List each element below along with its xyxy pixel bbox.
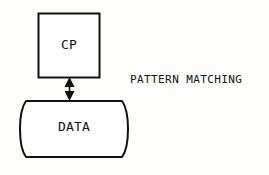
- data-label: DATA: [17, 119, 131, 134]
- cp-data-double-arrow[interactable]: [65, 77, 75, 101]
- diagram-canvas: CP DATA PATTERN MATCHING: [0, 0, 269, 175]
- diagram-svg: [0, 0, 269, 175]
- pattern-matching-annotation: PATTERN MATCHING: [130, 73, 242, 86]
- arrow-head-down-icon: [65, 91, 75, 101]
- cp-label: CP: [38, 37, 100, 52]
